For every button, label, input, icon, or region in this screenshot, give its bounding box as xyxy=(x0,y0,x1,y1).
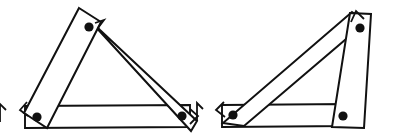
left-linkage-apex-joint-pivot xyxy=(84,22,93,31)
linkage-figure xyxy=(0,0,393,139)
left-linkage-lower-left-joint-pivot xyxy=(32,112,41,121)
right-linkage-lower-right-joint-pivot xyxy=(338,111,347,120)
right-linkage-lower-left-joint-pivot xyxy=(228,110,237,119)
left-linkage-lower-right-joint-pivot xyxy=(177,111,186,120)
right-linkage-upper-right-joint-pivot xyxy=(355,23,364,32)
